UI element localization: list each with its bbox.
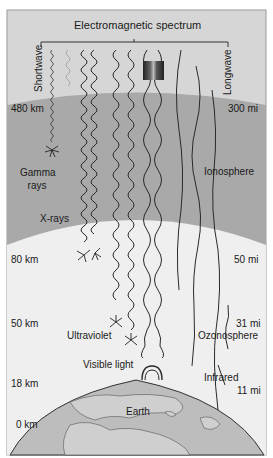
altitude-11mi: 11 mi bbox=[237, 386, 261, 396]
shortwave-label: Shortwave bbox=[34, 45, 44, 92]
visible-spectrum-block bbox=[143, 61, 164, 80]
xrays-label: X-rays bbox=[40, 214, 69, 224]
em-spectrum-diagram: Electromagnetic spectrum Shortwave Longw… bbox=[0, 0, 273, 458]
ionosphere-label: Ionosphere bbox=[204, 167, 254, 177]
gamma-label-1: Gamma bbox=[20, 168, 54, 178]
altitude-50km: 50 km bbox=[11, 319, 38, 329]
altitude-50mi: 50 mi bbox=[234, 255, 258, 265]
altitude-31mi: 31 mi bbox=[236, 319, 260, 329]
gamma-label-2: rays bbox=[20, 181, 54, 191]
altitude-480km: 480 km bbox=[11, 104, 44, 114]
earth-label: Earth bbox=[126, 407, 150, 417]
ozonosphere-label: Ozonosphere bbox=[198, 331, 258, 341]
diagram-title: Electromagnetic spectrum bbox=[74, 20, 201, 31]
longwave-label: Longwave bbox=[223, 49, 233, 95]
altitude-80km: 80 km bbox=[11, 255, 38, 265]
altitude-0km: 0 km bbox=[16, 420, 38, 430]
altitude-18km: 18 km bbox=[11, 379, 38, 389]
ultraviolet-label: Ultraviolet bbox=[67, 331, 111, 341]
visible-light-label: Visible light bbox=[83, 360, 133, 370]
altitude-300mi: 300 mi bbox=[228, 104, 258, 114]
infrared-label: Infrared bbox=[204, 373, 238, 383]
